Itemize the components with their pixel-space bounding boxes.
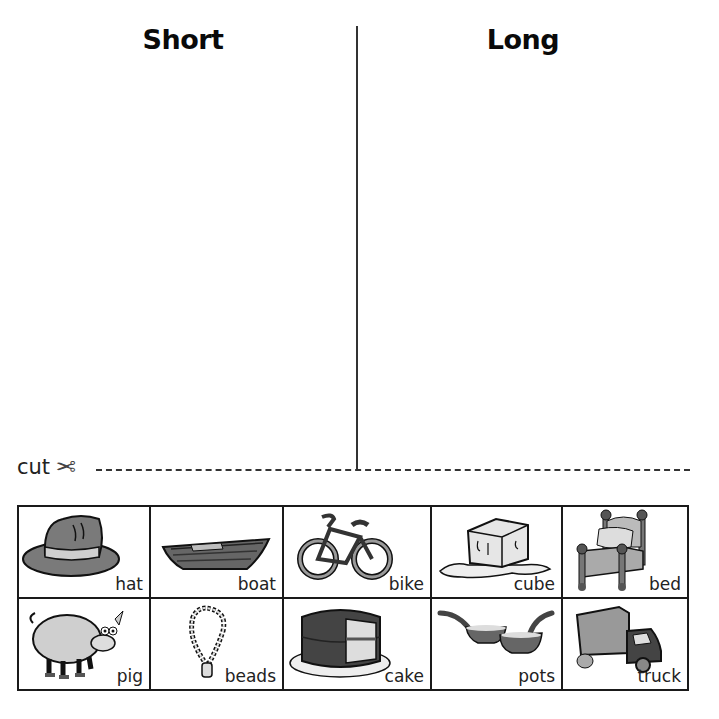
- card-word: pig: [117, 666, 143, 686]
- card-truck[interactable]: truck: [563, 599, 687, 689]
- card-bed[interactable]: bed: [563, 507, 687, 599]
- column-heading-short: Short: [125, 24, 241, 55]
- column-divider: [356, 26, 358, 470]
- card-cube[interactable]: cube: [432, 507, 563, 599]
- card-word: cube: [514, 574, 555, 594]
- card-word: bike: [389, 574, 424, 594]
- card-word: boat: [238, 574, 276, 594]
- card-boat[interactable]: boat: [151, 507, 284, 599]
- card-pig[interactable]: pig: [19, 599, 151, 689]
- card-word: bed: [649, 574, 681, 594]
- card-word: truck: [637, 666, 681, 686]
- card-cake[interactable]: cake: [284, 599, 432, 689]
- dashed-cut-line: [96, 469, 690, 471]
- scissors-icon: ✂: [56, 453, 76, 481]
- picture-card-grid: hat boat bike cube: [17, 505, 689, 691]
- card-bike[interactable]: bike: [284, 507, 432, 599]
- card-pots[interactable]: pots: [432, 599, 563, 689]
- card-word: hat: [115, 574, 143, 594]
- cut-instruction: cut ✂: [17, 452, 76, 482]
- card-word: beads: [225, 666, 276, 686]
- column-heading-long: Long: [473, 24, 573, 55]
- cut-label: cut: [17, 455, 50, 479]
- card-word: pots: [518, 666, 555, 686]
- card-beads[interactable]: beads: [151, 599, 284, 689]
- card-word: cake: [385, 666, 424, 686]
- card-hat[interactable]: hat: [19, 507, 151, 599]
